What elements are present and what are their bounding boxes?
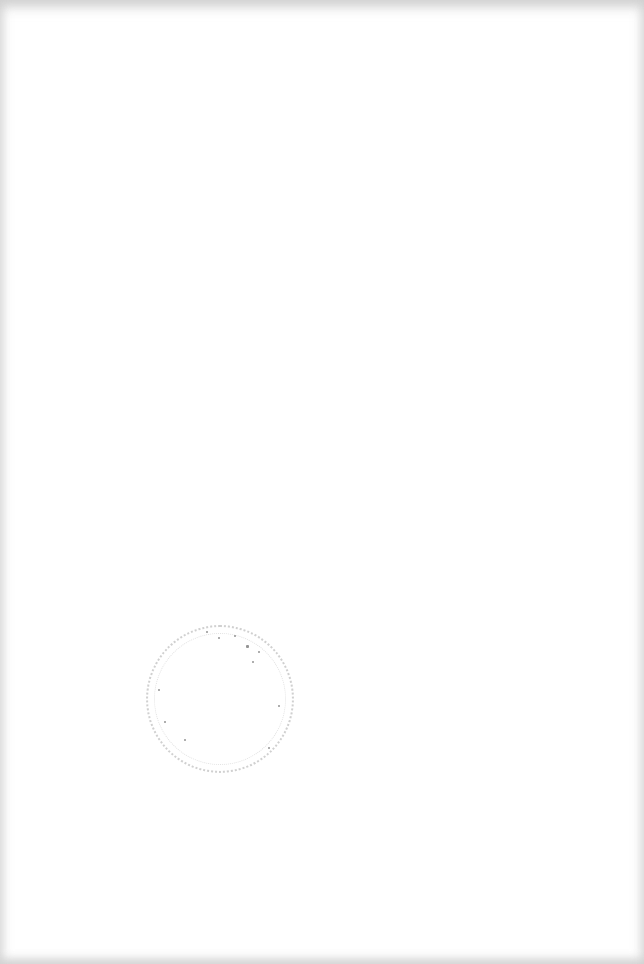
stamp-speck <box>158 689 160 691</box>
faint-circular-stamp <box>146 625 294 773</box>
stamp-text <box>148 627 149 628</box>
stamp-speck <box>268 747 270 749</box>
stamp-speck <box>234 635 236 637</box>
stamp-speck <box>246 645 249 648</box>
stamp-speck <box>184 739 186 741</box>
stamp-speck <box>252 661 254 663</box>
stamp-speck <box>164 721 166 723</box>
stamp-speck <box>258 651 260 653</box>
stamp-speck <box>206 631 208 633</box>
stamp-speck <box>218 637 220 639</box>
stamp-speck <box>278 705 280 707</box>
scanned-page <box>0 0 644 964</box>
